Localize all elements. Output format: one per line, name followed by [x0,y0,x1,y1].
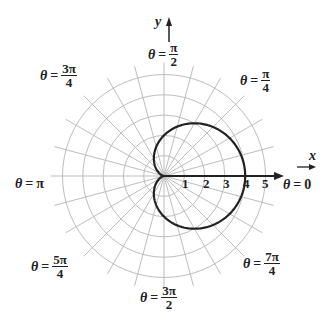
r-tick-5: 5 [262,176,269,192]
r-tick-4: 4 [243,176,250,192]
angle-label-3pi-over-2: θ= 3π2 [140,284,177,311]
r-tick-1: 1 [182,176,189,192]
angle-label-3pi-over-4: θ= 3π4 [40,62,77,89]
angle-label-0: θ=0 [283,177,311,193]
x-axis-label: x [309,148,316,164]
angle-label-pi-over-4: θ= π4 [240,67,270,94]
angle-label-7pi-over-4: θ= 7π4 [243,250,280,277]
angle-label-pi-over-2: θ= π2 [148,41,178,68]
x-axis-label-arrow [297,164,316,170]
y-axis-arrow [166,17,172,42]
angle-label-5pi-over-4: θ= 5π4 [31,253,68,280]
r-tick-3: 3 [223,176,230,192]
r-tick-2: 2 [203,176,210,192]
angle-label-pi: θ=π [15,176,44,192]
y-axis-label: y [155,14,161,30]
